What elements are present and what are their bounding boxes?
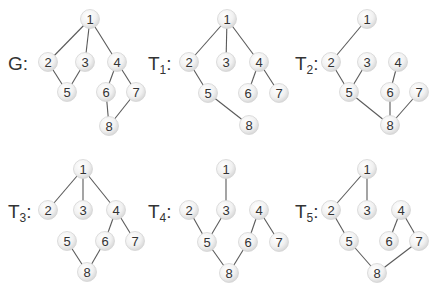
node-label: 2 (44, 55, 51, 70)
node-label: 5 (63, 85, 70, 100)
graph-label-main: T (295, 201, 307, 222)
edges (331, 19, 419, 125)
graph-label: T2: (295, 53, 319, 77)
graph-label-main: T (8, 201, 20, 222)
graph-label-colon: : (26, 201, 31, 222)
node-3: 3 (217, 53, 236, 72)
node-1: 1 (358, 160, 377, 179)
node-7: 7 (410, 232, 429, 251)
node-label: 5 (203, 235, 210, 250)
graph-t2: T2:12345678 (295, 10, 429, 135)
node-8: 8 (220, 264, 239, 283)
node-label: 8 (373, 266, 380, 281)
node-4: 4 (108, 53, 127, 72)
node-3: 3 (74, 201, 93, 220)
node-label: 1 (222, 162, 229, 177)
node-label: 1 (223, 12, 230, 27)
node-5: 5 (340, 232, 359, 251)
node-8: 8 (240, 116, 259, 135)
node-6: 6 (381, 83, 400, 102)
edges (48, 19, 136, 126)
node-label: 8 (245, 118, 252, 133)
node-label: 3 (363, 203, 370, 218)
edges (189, 169, 279, 273)
graph-label-colon: : (313, 201, 318, 222)
node-label: 4 (255, 55, 262, 70)
node-3: 3 (358, 53, 377, 72)
node-label: 4 (113, 55, 120, 70)
node-label: 4 (255, 203, 262, 218)
graph-label: T4: (148, 201, 172, 225)
graph-label-colon: : (166, 53, 171, 74)
node-4: 4 (389, 53, 408, 72)
node-label: 6 (244, 86, 251, 101)
node-label: 2 (327, 55, 334, 70)
node-label: 7 (275, 235, 282, 250)
node-2: 2 (180, 53, 199, 72)
node-label: 8 (105, 119, 112, 134)
node-5: 5 (340, 83, 359, 102)
graph-label: G: (8, 53, 28, 74)
node-7: 7 (127, 83, 146, 102)
node-2: 2 (322, 201, 341, 220)
node-label: 3 (79, 203, 86, 218)
node-label: 5 (345, 85, 352, 100)
node-label: 3 (222, 55, 229, 70)
node-7: 7 (126, 232, 145, 251)
node-4: 4 (392, 201, 411, 220)
node-1: 1 (81, 10, 100, 29)
node-6: 6 (239, 233, 258, 252)
node-label: 6 (385, 234, 392, 249)
node-8: 8 (381, 116, 400, 135)
node-2: 2 (322, 53, 341, 72)
node-label: 6 (386, 85, 393, 100)
node-5: 5 (199, 84, 218, 103)
node-2: 2 (39, 201, 58, 220)
node-label: 1 (79, 162, 86, 177)
node-6: 6 (380, 232, 399, 251)
node-label: 8 (83, 265, 90, 280)
edges (189, 19, 279, 125)
graph-label: T5: (295, 201, 319, 225)
edges (48, 169, 135, 272)
node-label: 7 (132, 85, 139, 100)
node-label: 4 (394, 55, 401, 70)
node-label: 2 (185, 203, 192, 218)
node-7: 7 (270, 84, 289, 103)
graph-label-main: T (295, 53, 307, 74)
node-4: 4 (107, 201, 126, 220)
node-7: 7 (410, 83, 429, 102)
node-4: 4 (250, 201, 269, 220)
graph-t3: T3:12345678 (8, 160, 145, 282)
node-4: 4 (250, 53, 269, 72)
graph-label-main: T (148, 201, 160, 222)
graph-label: T3: (8, 201, 32, 225)
node-3: 3 (358, 201, 377, 220)
node-label: 7 (275, 86, 282, 101)
node-3: 3 (217, 201, 236, 220)
node-5: 5 (58, 232, 77, 251)
graph-t4: T4:12345678 (148, 160, 289, 283)
node-label: 2 (44, 203, 51, 218)
graph-label-main: G (8, 53, 23, 74)
node-label: 5 (345, 234, 352, 249)
node-6: 6 (96, 232, 115, 251)
node-label: 3 (363, 55, 370, 70)
nodes: 12345678 (39, 160, 145, 282)
node-label: 2 (185, 55, 192, 70)
node-label: 7 (415, 234, 422, 249)
node-6: 6 (97, 83, 116, 102)
graph-figure: G:12345678T1:12345678T2:12345678T3:12345… (0, 0, 439, 296)
node-label: 4 (397, 203, 404, 218)
node-2: 2 (180, 201, 199, 220)
node-label: 6 (244, 235, 251, 250)
node-5: 5 (198, 233, 217, 252)
node-8: 8 (100, 117, 119, 136)
node-1: 1 (218, 10, 237, 29)
node-label: 7 (415, 85, 422, 100)
node-1: 1 (217, 160, 236, 179)
graph-t1: T1:12345678 (148, 10, 289, 135)
node-label: 3 (222, 203, 229, 218)
node-label: 8 (225, 266, 232, 281)
node-label: 4 (112, 203, 119, 218)
